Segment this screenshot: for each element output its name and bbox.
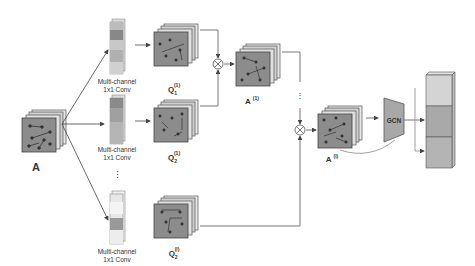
gcn-to-stack-arrows bbox=[404, 88, 424, 151]
conv-label-3b: 1x1 Conv bbox=[103, 256, 131, 263]
input-arrows bbox=[62, 50, 108, 220]
q2-label: Q2(1) bbox=[168, 150, 180, 164]
q1-tensor bbox=[154, 24, 198, 66]
al-tensor bbox=[318, 106, 362, 148]
q2-tensor bbox=[154, 100, 198, 142]
input-tensor-A bbox=[22, 110, 66, 152]
gcn-label: GCN bbox=[387, 117, 402, 124]
q1-label: Q1(1) bbox=[168, 82, 180, 96]
conv-to-q-arrows bbox=[135, 45, 150, 121]
input-label: A bbox=[32, 161, 40, 173]
conv-label-3a: Multi-channel bbox=[98, 248, 137, 255]
output-feature-stack bbox=[426, 72, 455, 168]
conv-block-3 bbox=[110, 191, 125, 244]
conv-block-1 bbox=[110, 19, 125, 74]
al-label: A(l) bbox=[326, 153, 339, 164]
gcn-block: GCN bbox=[384, 98, 404, 142]
a1-label: A(1) bbox=[245, 95, 259, 106]
conv-block-2 bbox=[110, 95, 125, 144]
conv-ellipsis: ⋮ bbox=[113, 170, 122, 180]
conv-label-1a: Multi-channel bbox=[98, 78, 137, 85]
ql-tensor bbox=[154, 196, 198, 238]
ql-label: Q2(l) bbox=[169, 246, 180, 260]
conv-label-1b: 1x1 Conv bbox=[103, 86, 131, 93]
multiply-op-1 bbox=[213, 59, 223, 69]
layer-ellipsis: ⋮ bbox=[296, 91, 304, 100]
multiply-op-2 bbox=[295, 125, 305, 135]
conv-label-2b: 1x1 Conv bbox=[103, 154, 131, 161]
conv-label-2a: Multi-channel bbox=[98, 146, 137, 153]
a1-tensor bbox=[236, 44, 280, 86]
architecture-diagram: A Multi-channel 1x1 Conv Multi-channel 1… bbox=[0, 0, 475, 266]
